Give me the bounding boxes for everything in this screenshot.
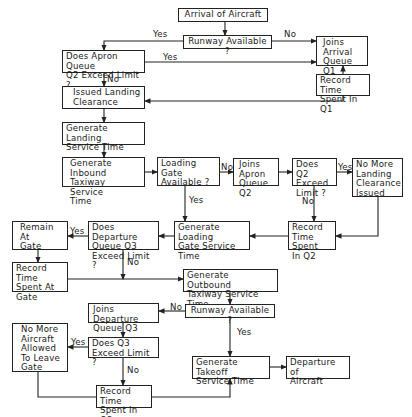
node-no-more-landing-clearance: No More Landing Clearance Issued [352, 158, 403, 197]
node-issued-landing-clearance: Issued Landing Clearance [62, 86, 145, 109]
arrow-recordq1-to-clearance [145, 96, 343, 101]
label-runway-top-no: No [284, 30, 296, 39]
arrow-runway-yes-to-apron [104, 41, 183, 50]
flowchart: Arrival of Aircraft Runway Available ? J… [0, 0, 412, 417]
node-runway-available-bottom: Runway Available ? [185, 304, 275, 318]
label-apron-no: No [107, 75, 119, 84]
node-q3-exceed-limit: Does Q3 Exceed Limit ? [88, 337, 159, 358]
node-record-time-at-gate: Record Time Spent At Gate [12, 262, 68, 292]
node-joins-arrival-queue-q1: Joins Arrival Queue Q1 [316, 36, 368, 66]
label-runway-bottom-yes: Yes [237, 328, 251, 337]
label-runway-top-yes: Yes [153, 30, 167, 39]
label-gate-yes: Yes [189, 196, 203, 205]
node-runway-available-top: Runway Available ? [183, 35, 272, 49]
node-joins-apron-queue-q2: Joins Apron Queue Q2 [233, 158, 279, 186]
label-q3-no: No [127, 366, 139, 375]
node-generate-inbound-taxiway: Generate Inbound Taxiway Service Time [62, 157, 145, 187]
node-departure-queue-q3-limit: Does Departure Queue Q3 Exceed Limit ? [88, 221, 159, 250]
label-apron-yes: Yes [163, 53, 177, 62]
label-q3dep-no: No [127, 258, 139, 267]
node-q2-exceed-limit: Does Q2 Exceed Limit ? [292, 158, 337, 186]
node-arrival-of-aircraft: Arrival of Aircraft [178, 8, 268, 22]
label-runway-bottom-no: No [170, 303, 182, 312]
label-q2-yes: Yes [338, 163, 352, 172]
node-record-time-q2: Record Time Spent In Q2 [288, 221, 336, 250]
node-remain-at-gate: Remain At Gate [12, 221, 68, 250]
node-generate-loading-gate-service: Generate Loading Gate Service Time [174, 221, 250, 250]
label-q3dep-yes: Yes [70, 227, 84, 236]
node-generate-outbound-taxiway: Generate Outbound Taxiway Service Time [183, 269, 278, 292]
node-record-time-q1: Record Time Spent In Q1 [316, 74, 370, 96]
node-apron-queue-limit: Does Apron Queue Q2 Exceed Limit ? [62, 50, 145, 73]
node-generate-takeoff-service: Generate Takeoff Service Time [192, 356, 270, 379]
arrow-nomore-to-recordq2 [336, 197, 378, 236]
label-gate-no: No [221, 163, 233, 172]
node-loading-gate-available: Loading Gate Available ? [157, 157, 220, 186]
node-joins-departure-queue-q3: Joins Departure Queue Q3 [88, 303, 159, 323]
node-no-more-aircraft-leave-gate: No More Aircraft Allowed To Leave Gate [12, 323, 68, 372]
node-generate-landing-service: Generate Landing Service Time [62, 122, 145, 145]
label-q3-yes: Yes [71, 338, 85, 347]
label-q2-no: No [302, 197, 314, 206]
node-departure-of-aircraft: Departure of Aircraft [286, 356, 350, 379]
node-record-time-q3: Record Time Spent In Q3 [96, 385, 152, 408]
arrow-nomoreaircraft-to-recordq3 [38, 372, 96, 397]
